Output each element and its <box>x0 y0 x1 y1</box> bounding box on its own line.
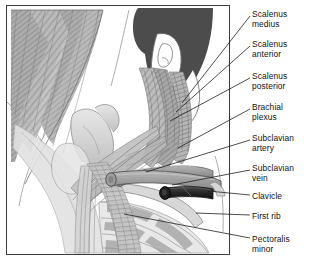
label-column: Scalenus mediusScalenus anteriorScalenus… <box>250 0 316 267</box>
label-subclavian-artery: Subclavian artery <box>252 133 294 154</box>
label-brachial-plexus: Brachial plexus <box>252 102 283 123</box>
label-scalenus-medius: Scalenus medius <box>252 9 287 30</box>
label-scalenus-posterior: Scalenus posterior <box>252 71 287 92</box>
illustration-frame <box>6 5 230 255</box>
figure-caption <box>6 261 216 267</box>
label-first-rib: First rib <box>252 211 281 221</box>
label-subclavian-vein: Subclavian vein <box>252 163 294 184</box>
figure-root: Scalenus mediusScalenus anteriorScalenus… <box>0 0 316 267</box>
label-scalenus-anterior: Scalenus anterior <box>252 39 287 60</box>
label-pectoralis-minor: Pectoralis minor <box>252 234 290 255</box>
anatomy-illustration <box>7 6 229 254</box>
label-clavicle: Clavicle <box>252 191 282 201</box>
